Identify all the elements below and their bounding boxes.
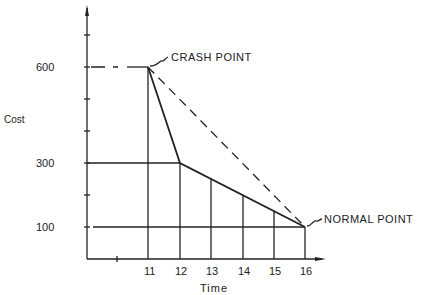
y-axis-label: Cost [4, 114, 25, 125]
x-tick-14: 14 [238, 265, 250, 277]
x-tick-11: 11 [144, 265, 155, 277]
normal-point-label: NORMAL POINT [324, 213, 413, 225]
y-axis-arrow-icon [85, 5, 89, 16]
time-cost-chart: 600 300 100 Cost 11 12 13 14 15 16 Time … [0, 0, 428, 295]
chart: 600 300 100 Cost 11 12 13 14 15 16 Time … [0, 0, 428, 295]
x-tick-16: 16 [300, 265, 312, 277]
crash-point-label: CRASH POINT [171, 51, 252, 63]
x-tick-13: 13 [206, 265, 218, 277]
x-axis-label: Time [200, 282, 228, 294]
x-tick-12: 12 [175, 265, 187, 277]
y-tick-100: 100 [36, 221, 54, 233]
linear-approximation [148, 67, 305, 227]
y-tick-600: 600 [36, 61, 54, 73]
x-axis-arrow-icon [315, 257, 326, 261]
x-tick-15: 15 [269, 265, 281, 277]
y-tick-300: 300 [36, 157, 54, 169]
